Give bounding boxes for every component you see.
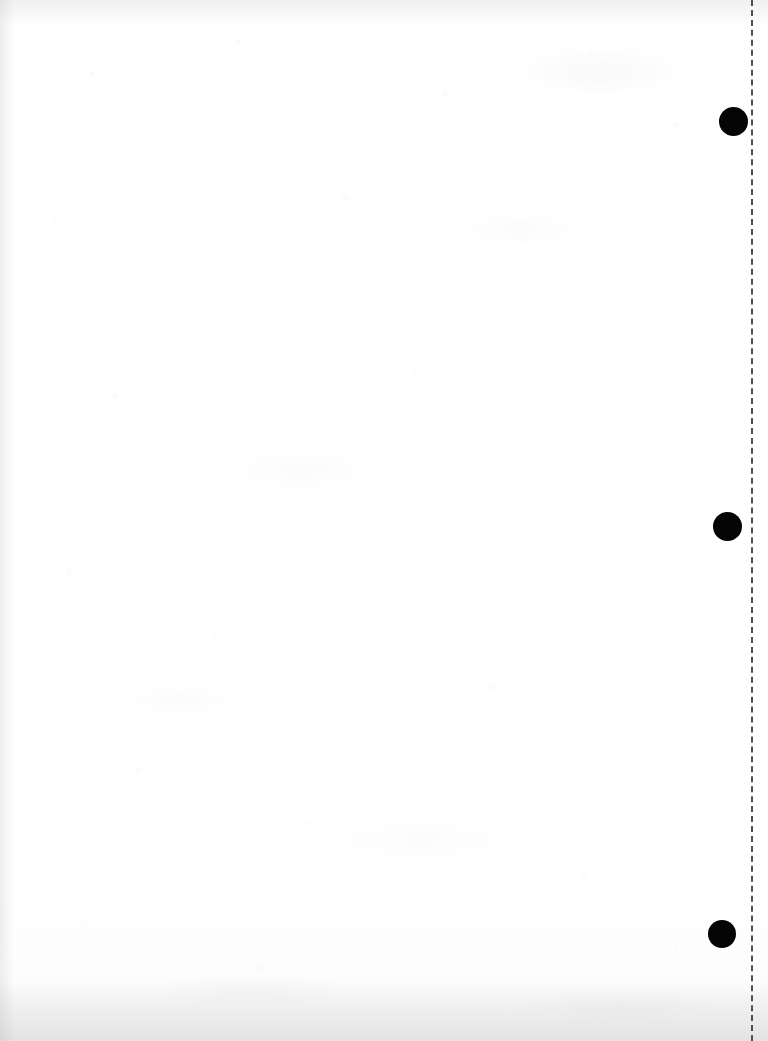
- paper-smudge-texture: [0, 0, 768, 1041]
- scan-edge-bottom: [0, 983, 768, 1041]
- scan-edge-top: [0, 0, 768, 24]
- registration-dot-3: [708, 920, 736, 948]
- registration-dot-2: [713, 512, 742, 541]
- scan-edge-left: [0, 0, 14, 1041]
- dashed-margin-line: [751, 0, 753, 1041]
- registration-dot-1: [719, 107, 748, 136]
- scanned-page: [0, 0, 768, 1041]
